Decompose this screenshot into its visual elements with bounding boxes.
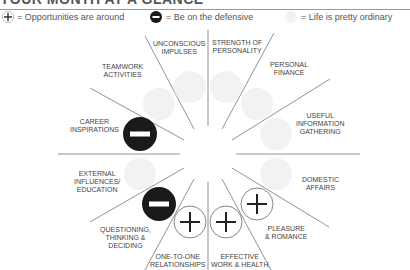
house-marker-external <box>124 158 156 190</box>
house-label-unconscious: UNCONSCIOUSIMPULSES <box>153 40 206 56</box>
house-marker-strength <box>210 71 242 103</box>
house-label-strength: STRENGTH OFPERSONALITY <box>212 39 262 55</box>
house-marker-domestic <box>260 158 292 190</box>
house-marker-unconscious <box>174 71 206 103</box>
house-label-finance: PERSONALFINANCE <box>270 61 308 77</box>
house-label-domestic: DOMESTICAFFAIRS <box>302 176 339 192</box>
house-label-career: CAREERINSPIRATIONS <box>70 118 119 134</box>
house-label-teamwork: TEAMWORKACTIVITIES <box>102 63 143 79</box>
opportunity-markers <box>174 188 273 238</box>
house-label-information: USEFULINFORMATIONGATHERING <box>296 112 344 136</box>
house-label-questioning: QUESTIONING,THINKING &DECIDING <box>100 226 151 250</box>
house-marker-finance <box>241 88 273 120</box>
house-label-external: EXTERNALINFLUENCES/EDUCATION <box>74 170 120 194</box>
house-marker-teamwork <box>143 88 175 120</box>
house-label-one-to-one: ONE-TO-ONERELATIONSHIPS <box>150 253 206 269</box>
house-label-pleasure: PLEASURE& ROMANCE <box>265 225 307 241</box>
house-marker-information <box>260 118 292 150</box>
house-label-effective: EFFECTIVEWORK & HEALTH <box>211 253 268 269</box>
